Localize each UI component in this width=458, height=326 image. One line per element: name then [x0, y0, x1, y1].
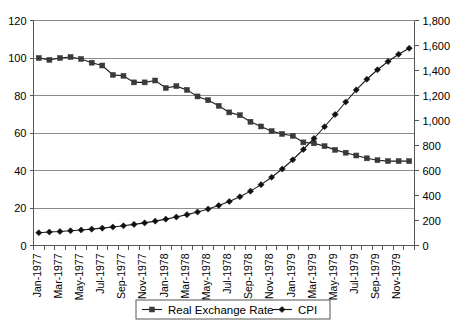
data-point-marker	[36, 230, 42, 236]
data-point-marker	[174, 84, 179, 89]
data-point-marker	[226, 198, 232, 204]
chart-container: 020406080100120 02004006008001,0001,2001…	[0, 0, 458, 326]
data-point-marker	[78, 227, 84, 233]
x-tick-label: Sep-1978	[242, 253, 254, 299]
y2-tick-label: 1,200	[423, 90, 451, 102]
x-tick-label: Jan-1978	[158, 253, 170, 297]
y-tick-label: 80	[14, 90, 26, 102]
data-point-marker	[301, 140, 306, 145]
chart-canvas: 020406080100120 02004006008001,0001,2001…	[0, 0, 458, 326]
series-cpi	[36, 45, 413, 236]
data-point-marker	[406, 45, 412, 51]
y-tick-label: 0	[20, 240, 26, 252]
legend-label-real-exchange-rate: Real Exchange Rate	[168, 304, 273, 316]
x-tick-label: Jul-1978	[221, 253, 233, 293]
data-point-marker	[396, 159, 401, 164]
data-point-marker	[386, 159, 391, 164]
data-point-marker	[205, 206, 211, 212]
legend-marker-square-icon	[150, 307, 155, 312]
data-point-marker	[269, 129, 274, 134]
data-point-marker	[99, 225, 105, 231]
data-point-marker	[163, 86, 168, 91]
x-tick-label: May-1979	[327, 253, 339, 300]
data-point-marker	[322, 144, 327, 149]
y2-tick-label: 1,600	[423, 40, 451, 52]
data-point-marker	[194, 209, 200, 215]
y2-tick-label: 1,400	[423, 65, 451, 77]
y-tick-label: 20	[14, 202, 26, 214]
data-point-marker	[396, 51, 402, 57]
legend-label-cpi: CPI	[298, 304, 317, 316]
data-point-marker	[152, 218, 158, 224]
data-point-marker	[259, 124, 264, 129]
data-point-marker	[100, 63, 105, 68]
y-tick-label: 60	[14, 127, 26, 139]
data-point-marker	[364, 156, 369, 161]
data-point-marker	[131, 221, 137, 227]
data-point-marker	[142, 80, 147, 85]
data-point-marker	[36, 56, 41, 61]
y-tick-label: 40	[14, 165, 26, 177]
y2-tick-label: 0	[423, 240, 429, 252]
y-tick-label: 100	[8, 52, 26, 64]
data-point-marker	[375, 158, 380, 163]
x-tick-label: Jul-1979	[348, 253, 360, 293]
data-point-marker	[237, 194, 243, 200]
data-point-marker	[142, 220, 148, 226]
data-point-marker	[132, 80, 137, 85]
data-point-marker	[89, 226, 95, 232]
data-point-marker	[354, 153, 359, 158]
y2-tick-label: 1,800	[423, 15, 451, 27]
data-point-marker	[67, 228, 73, 234]
series-real-exchange-rate	[36, 55, 411, 164]
data-point-marker	[184, 87, 189, 92]
x-tick-label: Mar-1977	[52, 253, 64, 298]
x-tick-label: Mar-1978	[179, 253, 191, 298]
data-point-marker	[89, 60, 94, 65]
data-point-marker	[343, 150, 348, 155]
data-point-marker	[195, 94, 200, 99]
series-line	[39, 48, 409, 233]
data-point-marker	[206, 98, 211, 103]
x-tick-label: Jan-1977	[31, 253, 43, 297]
x-tick-label: Sep-1979	[369, 253, 381, 299]
x-tick-label: May-1977	[73, 253, 85, 300]
x-axis-ticks	[34, 246, 415, 250]
y2-axis-tick-labels: 02004006008001,0001,2001,4001,6001,800	[423, 15, 451, 252]
data-point-marker	[46, 229, 52, 235]
x-tick-label: Nov-1978	[263, 253, 275, 299]
x-tick-label: Jul-1977	[94, 253, 106, 293]
y2-tick-label: 600	[423, 165, 441, 177]
grid-lines	[34, 21, 415, 209]
data-point-marker	[184, 212, 190, 218]
data-point-marker	[290, 133, 295, 138]
data-point-marker	[47, 57, 52, 62]
data-point-marker	[79, 56, 84, 61]
data-point-marker	[407, 159, 412, 164]
data-point-marker	[333, 147, 338, 152]
x-tick-label: Jan-1979	[285, 253, 297, 297]
x-tick-label: Nov-1977	[136, 253, 148, 299]
data-point-marker	[216, 103, 221, 108]
data-point-marker	[153, 78, 158, 83]
data-point-marker	[57, 228, 63, 234]
data-point-marker	[121, 73, 126, 78]
data-point-marker	[227, 110, 232, 115]
data-point-marker	[110, 72, 115, 77]
data-point-marker	[110, 224, 116, 230]
series-line	[39, 57, 409, 161]
y2-tick-label: 200	[423, 215, 441, 227]
data-point-marker	[237, 113, 242, 118]
x-tick-label: Sep-1977	[115, 253, 127, 299]
data-point-marker	[57, 56, 62, 61]
x-tick-label: May-1978	[200, 253, 212, 300]
data-point-marker	[280, 131, 285, 136]
y2-tick-label: 1,000	[423, 115, 451, 127]
data-point-marker	[120, 223, 126, 229]
y-axis-tick-labels: 020406080100120	[8, 15, 26, 252]
chart-legend: Real Exchange RateCPI	[136, 300, 330, 319]
x-tick-label: Nov-1979	[390, 253, 402, 299]
data-point-marker	[68, 55, 73, 60]
data-point-marker	[248, 119, 253, 124]
data-point-marker	[163, 216, 169, 222]
